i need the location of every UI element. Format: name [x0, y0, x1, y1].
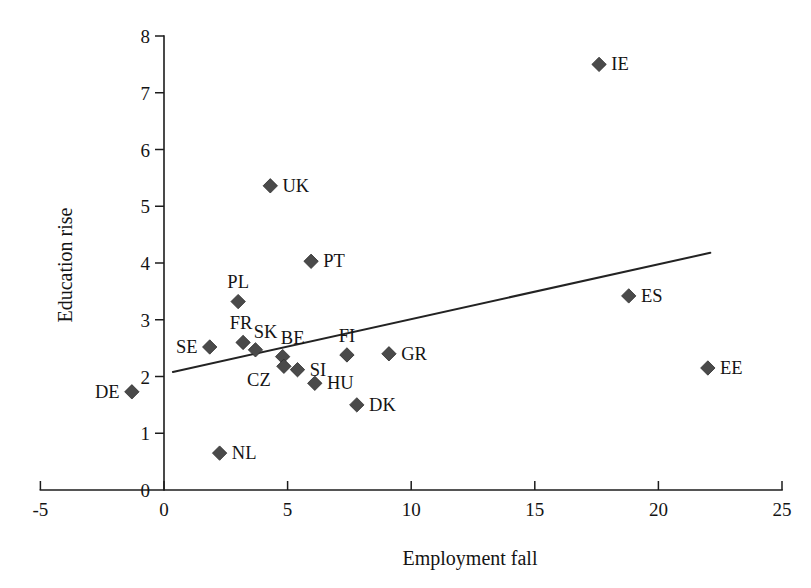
data-point: NL — [212, 443, 256, 463]
data-point: PL — [227, 272, 249, 308]
data-point-marker — [382, 347, 396, 361]
data-point-marker — [592, 57, 606, 71]
data-point-label: BE — [281, 328, 305, 348]
x-axis-tick-label: 25 — [773, 499, 792, 520]
data-point-label: ES — [641, 286, 663, 306]
y-axis-tick-label: 0 — [141, 480, 151, 501]
data-point-label: GR — [401, 344, 427, 364]
y-axis-tick-label: 1 — [141, 423, 151, 444]
data-point-marker — [701, 361, 715, 375]
data-point-label: SK — [254, 322, 278, 342]
data-point-marker — [231, 294, 245, 308]
scatter-plot-svg: -50510152025012345678 DESENLPLFRSKUKBECZ… — [0, 0, 811, 588]
y-axis-tick-label: 3 — [141, 310, 151, 331]
data-point-label: NL — [232, 443, 257, 463]
data-point-label: CZ — [247, 370, 271, 390]
data-point: SE — [176, 337, 217, 357]
y-axis-tick-label: 5 — [141, 196, 151, 217]
data-point-marker — [622, 289, 636, 303]
data-point: ES — [622, 286, 663, 306]
data-point-label: UK — [282, 176, 309, 196]
scatter-chart-figure: -50510152025012345678 DESENLPLFRSKUKBECZ… — [0, 0, 811, 588]
data-point-label: SI — [310, 360, 326, 380]
data-points-group: DESENLPLFRSKUKBECZSIPTHUFIDKGRIEESEE — [95, 54, 743, 463]
data-point-marker — [277, 359, 291, 373]
data-point-marker — [350, 398, 364, 412]
x-axis-title: Employment fall — [403, 547, 538, 570]
y-axis-tick-label: 2 — [141, 367, 151, 388]
data-point-label: DK — [369, 395, 396, 415]
data-point: SI — [290, 360, 326, 380]
x-axis-tick-label: 15 — [525, 499, 544, 520]
data-point: PT — [304, 251, 345, 271]
axis-titles-group: Employment fall Education rise — [54, 207, 538, 570]
x-axis-tick-label: 0 — [159, 499, 169, 520]
y-axis-tick-label: 8 — [141, 26, 151, 47]
x-axis-tick-label: -5 — [32, 499, 48, 520]
data-point-label: HU — [327, 373, 354, 393]
x-axis-tick-label: 10 — [402, 499, 421, 520]
data-point-marker — [290, 362, 304, 376]
data-point: EE — [701, 358, 743, 378]
data-point-marker — [236, 335, 250, 349]
data-point-label: DE — [95, 382, 120, 402]
data-point-label: PT — [323, 251, 345, 271]
data-point-label: IE — [611, 54, 628, 74]
data-point-marker — [340, 348, 354, 362]
axes-group: -50510152025012345678 — [32, 26, 791, 520]
y-axis-tick-label: 6 — [141, 140, 151, 161]
data-point-label: PL — [227, 272, 249, 292]
data-point-marker — [304, 254, 318, 268]
data-point: GR — [382, 344, 428, 364]
data-point-label: EE — [720, 358, 743, 378]
data-point-label: SE — [176, 337, 198, 357]
y-axis-tick-label: 4 — [141, 253, 151, 274]
data-point: HU — [308, 373, 354, 393]
x-axis-tick-label: 5 — [283, 499, 293, 520]
data-point-marker — [263, 179, 277, 193]
data-point: FR — [230, 313, 253, 349]
data-point: IE — [592, 54, 629, 74]
data-point: CZ — [247, 359, 291, 390]
data-point: DK — [350, 395, 397, 415]
data-point-marker — [203, 340, 217, 354]
y-axis-tick-label: 7 — [141, 83, 151, 104]
data-point: BE — [275, 328, 304, 363]
data-point-label: FI — [339, 326, 355, 346]
data-point-label: FR — [230, 313, 253, 333]
data-point-marker — [212, 446, 226, 460]
x-axis-tick-label: 20 — [649, 499, 668, 520]
data-point: UK — [263, 176, 310, 196]
data-point: DE — [95, 382, 139, 402]
data-point-marker — [125, 385, 139, 399]
data-point: FI — [339, 326, 355, 362]
y-axis-title: Education rise — [54, 207, 76, 322]
